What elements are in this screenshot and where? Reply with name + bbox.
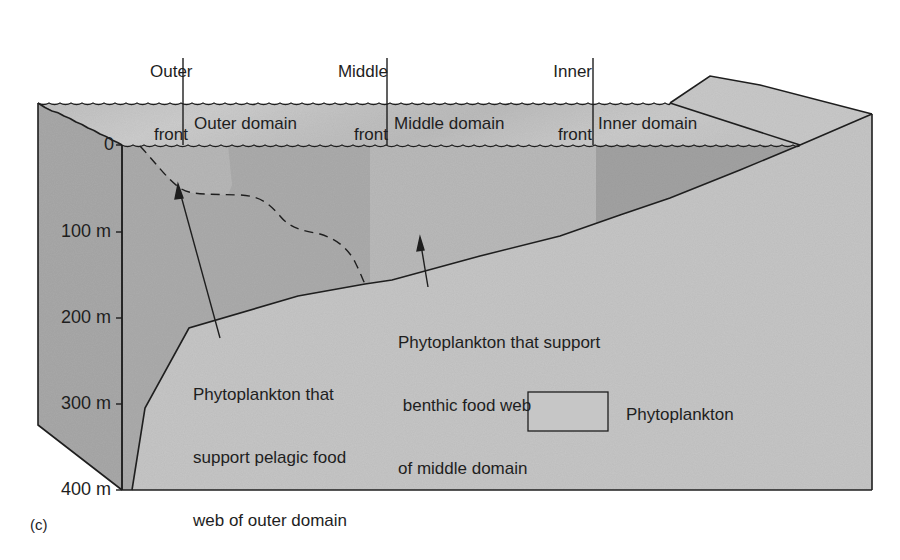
legend-label: Phytoplankton (626, 404, 734, 425)
depth-tick-200: 200 m (8, 307, 111, 328)
outer-front-label: Outer front (150, 19, 188, 187)
middle-front-label: Middle front (330, 19, 388, 187)
depth-tick-300: 300 m (8, 393, 111, 414)
depth-tick-400: 400 m (8, 479, 111, 500)
benthic-callout: Phytoplankton that support benthic food … (398, 290, 600, 521)
outer-domain-label: Outer domain (194, 113, 297, 134)
inner-front-label: Inner front (545, 19, 592, 187)
pelagic-callout: Phytoplankton that support pelagic food … (193, 342, 347, 560)
depth-tick-0: 0 (8, 134, 114, 155)
continental-shelf-diagram: Outer front Middle front Inner front Out… (0, 0, 900, 560)
depth-tick-100: 100 m (8, 221, 111, 242)
inner-domain-label: Inner domain (598, 113, 697, 134)
middle-domain-label: Middle domain (394, 113, 505, 134)
left-side-face (38, 103, 122, 490)
panel-label: (c) (30, 514, 48, 535)
